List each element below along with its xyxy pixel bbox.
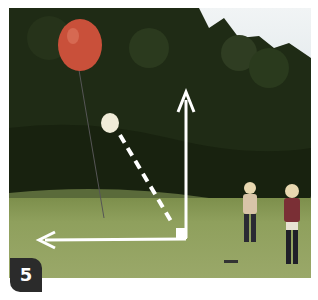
horizontal-arrow xyxy=(45,239,186,240)
tether-string xyxy=(79,70,104,218)
ground-object xyxy=(224,260,238,263)
child-right xyxy=(284,184,300,264)
balloon xyxy=(58,19,102,71)
right-angle-marker xyxy=(176,228,187,239)
balloon-field-photo xyxy=(9,8,311,278)
small-balloon xyxy=(101,113,119,133)
annotation-overlay xyxy=(9,8,311,278)
child-left xyxy=(243,182,257,242)
step-number-badge: 5 xyxy=(10,258,42,292)
dashed-angle-line xyxy=(120,135,171,221)
